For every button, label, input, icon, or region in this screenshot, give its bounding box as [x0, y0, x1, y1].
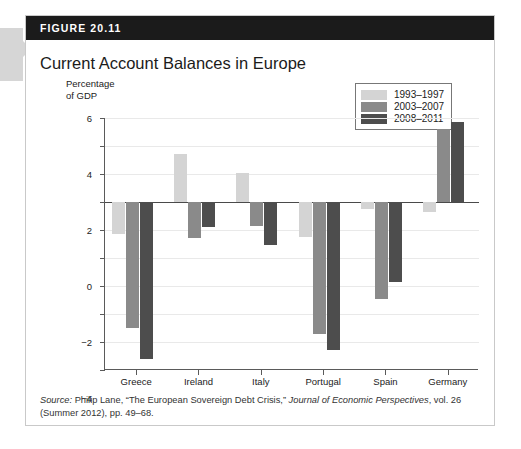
bar-group: Portugal — [292, 118, 354, 370]
y-axis-caption: Percentage of GDP — [66, 78, 115, 101]
source-label: Source: — [40, 395, 72, 405]
x-axis-tick-label: Italy — [252, 376, 269, 387]
figure-header-band: FIGURE 20.11 — [26, 16, 494, 40]
x-axis-tick — [136, 370, 137, 375]
x-axis-tick-label: Ireland — [184, 376, 213, 387]
x-axis-tick-label: Germany — [428, 376, 467, 387]
page-bookmark-tab — [0, 28, 23, 81]
chart-bar — [313, 202, 326, 334]
x-axis-tick — [261, 370, 262, 375]
y-axis-tick: −12 — [100, 370, 105, 371]
legend-swatch-icon — [361, 102, 387, 112]
chart-plot-area: Percentage of GDP 1993–19972003–20072008… — [26, 78, 494, 393]
y-axis-caption-line2: of GDP — [66, 90, 115, 102]
bar-group: Germany — [417, 118, 479, 370]
x-axis-tick — [198, 370, 199, 375]
bar-group: Spain — [354, 118, 416, 370]
bar-group: Greece — [105, 118, 167, 370]
chart-bar — [140, 202, 153, 359]
legend-label: 1993–1997 — [394, 89, 444, 100]
figure-card: FIGURE 20.11 Current Account Balances in… — [25, 15, 495, 426]
chart-bar — [375, 202, 388, 299]
x-axis-tick-label: Spain — [373, 376, 397, 387]
chart-bar — [188, 202, 201, 238]
legend-swatch-icon — [361, 90, 387, 100]
legend-item: 1993–1997 — [361, 89, 444, 100]
y-axis-tick-label: 4 — [87, 169, 92, 180]
chart-bar — [236, 173, 249, 202]
legend-label: 2003–2007 — [394, 101, 444, 112]
x-axis-tick — [448, 370, 449, 375]
figure-title: Current Account Balances in Europe — [26, 40, 494, 73]
chart-bar — [264, 202, 277, 245]
x-axis-tick-label: Greece — [121, 376, 152, 387]
chart-bar — [299, 202, 312, 237]
y-axis-tick-label: 0 — [87, 281, 92, 292]
bar-group: Ireland — [167, 118, 229, 370]
chart-bar — [437, 129, 450, 202]
figure-number-label: FIGURE 20.11 — [40, 22, 121, 34]
source-journal-name: Journal of Economic Perspectives — [289, 395, 429, 405]
legend-item: 2003–2007 — [361, 101, 444, 112]
chart-bar — [126, 202, 139, 328]
chart-bar — [327, 202, 340, 350]
chart-bar — [174, 154, 187, 202]
bar-group: Italy — [230, 118, 292, 370]
source-text-part1: Philip Lane, “The European Sovereign Deb… — [72, 395, 289, 405]
y-axis-tick-label: 6 — [87, 113, 92, 124]
x-axis-tick-label: Portugal — [305, 376, 340, 387]
chart-bar — [250, 202, 263, 226]
chart-frame: 6420−2−4−6−8−10−12GreeceIrelandItalyPort… — [104, 118, 478, 370]
chart-bar — [451, 122, 464, 202]
chart-bar — [112, 202, 125, 234]
chart-bar — [423, 202, 436, 212]
chart-bar — [361, 202, 374, 209]
y-axis-tick-label: 2 — [87, 225, 92, 236]
source-note: Source: Philip Lane, “The European Sover… — [40, 394, 482, 420]
chart-bar — [389, 202, 402, 282]
y-axis-tick-label: −2 — [81, 337, 92, 348]
x-axis-tick — [385, 370, 386, 375]
chart-bar — [202, 202, 215, 227]
x-axis-tick — [323, 370, 324, 375]
y-axis-caption-line1: Percentage — [66, 78, 115, 90]
